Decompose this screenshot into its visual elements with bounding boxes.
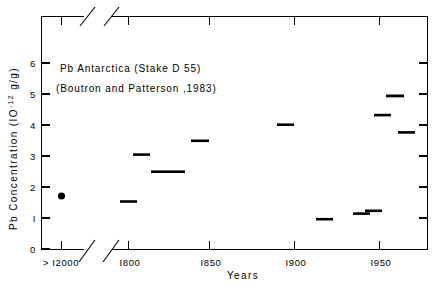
- y-tick-label-6: 6: [30, 58, 36, 69]
- y-axis-title-group: Pb Concentration (IO-12 g/g): [7, 67, 19, 230]
- y-axis: [42, 16, 51, 250]
- x-tick-label-1800: I800: [120, 257, 141, 268]
- data-point-1818: [151, 170, 168, 173]
- data-point-1800: [120, 200, 137, 203]
- data-point-1955: [386, 95, 404, 98]
- y-axis-title-prefix: Pb Concentration (IO: [8, 108, 19, 230]
- chart-svg: 6 5 4 3 2 I 0 > I2000 I800 I850 I900 I95…: [0, 0, 441, 285]
- data-point-1841: [191, 140, 209, 143]
- y-tick-label-3: 3: [30, 151, 36, 162]
- y-axis-title: Pb Concentration (IO-12 g/g): [7, 67, 19, 230]
- x-axis-break-slash-right: [103, 240, 119, 262]
- x-tick-label-1900: I900: [286, 257, 307, 268]
- annotation-line-1: Pb Antarctica (Stake D 55): [60, 63, 201, 74]
- data-point-1827: [168, 170, 185, 173]
- y-tick-label-1: I: [33, 213, 36, 224]
- y-tick-label-0: 0: [30, 244, 36, 255]
- data-series-ancient-ice: [58, 192, 65, 199]
- data-series-dated-layers: [120, 95, 415, 221]
- annotation-block: Pb Antarctica (Stake D 55) (Boutron and …: [56, 63, 217, 94]
- y-tick-label-5: 5: [30, 89, 36, 100]
- x-tick-labels: > I2000 I800 I850 I900 I950: [43, 257, 392, 268]
- data-point-1962: [398, 131, 415, 134]
- data-point-1943: [365, 210, 382, 213]
- figure-panel: 6 5 4 3 2 I 0 > I2000 I800 I850 I900 I95…: [0, 0, 441, 285]
- x-tick-label-1850: I850: [201, 257, 222, 268]
- x-axis-title: Years: [227, 270, 259, 281]
- annotation-line-2: (Boutron and Patterson ,1983): [56, 83, 217, 94]
- data-point-1808: [133, 153, 150, 156]
- y-axis-title-exponent: -12: [7, 94, 14, 108]
- data-point-1891: [277, 123, 294, 126]
- data-point-1914: [316, 218, 333, 221]
- y-tick-label-4: 4: [30, 120, 36, 131]
- x-tick-label-1950: I950: [371, 257, 392, 268]
- top-axis: [41, 7, 428, 26]
- data-point-ancient-ice: [58, 192, 65, 199]
- y-axis-title-suffix: g/g): [8, 67, 19, 94]
- y-tick-label-2: 2: [30, 182, 36, 193]
- x-axis-break-slash-left: [79, 240, 95, 262]
- data-point-1936: [353, 212, 370, 215]
- y-tick-labels: 6 5 4 3 2 I 0: [30, 58, 36, 255]
- x-tick-label-ancient: > I2000: [43, 257, 79, 268]
- right-axis: [419, 16, 428, 250]
- data-point-1948: [374, 114, 391, 117]
